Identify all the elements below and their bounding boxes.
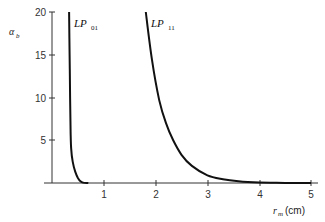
x-tick-label: 4	[257, 189, 263, 200]
x-tick-label: 1	[101, 189, 107, 200]
svg-text:m: m	[278, 210, 283, 218]
x-tick-label: 5	[308, 189, 314, 200]
svg-text:r: r	[273, 205, 277, 216]
svg-text:b: b	[16, 32, 20, 40]
y-tick-label: 20	[35, 7, 47, 18]
svg-text:11: 11	[168, 24, 175, 32]
svg-text:α: α	[9, 26, 15, 37]
curve-lp11	[146, 12, 311, 183]
y-axis-title: α b	[9, 26, 20, 40]
svg-text:LP: LP	[150, 17, 164, 29]
x-tick-label: 3	[205, 189, 211, 200]
x-tick-label: 2	[153, 189, 159, 200]
lp01-label: LP 01	[73, 17, 99, 32]
x-axis-title: r m (cm)	[273, 205, 305, 218]
svg-text:LP: LP	[73, 17, 87, 29]
y-tick-label: 5	[40, 135, 46, 146]
curve-lp01	[69, 12, 88, 183]
y-tick-label: 15	[35, 50, 47, 61]
y-tick-label: 10	[35, 93, 47, 104]
svg-text:01: 01	[91, 24, 99, 32]
svg-text:(cm): (cm)	[285, 205, 305, 216]
lp11-label: LP 11	[150, 17, 175, 32]
chart: 5 10 15 20 1 2 3 4 5 α b r m (cm) LP 01 …	[0, 0, 325, 222]
